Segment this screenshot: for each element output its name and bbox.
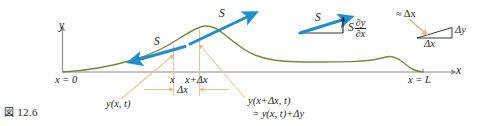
y-expansion-label: = y(x, t)+Δy	[248, 107, 304, 120]
inset-component-graphic	[300, 20, 343, 33]
y-axis-label: y	[59, 19, 64, 31]
tick-label-x: x	[170, 74, 175, 85]
hypotenuse-pointer	[409, 19, 424, 32]
triangle-shape	[417, 28, 452, 39]
caption-number: 12.6	[17, 106, 37, 118]
origin-label: x = 0	[55, 74, 77, 85]
tension-vector-right	[190, 17, 247, 44]
y-x-plus-dx-t-block: y(x+Δx, t) = y(x, t)+Δy	[248, 94, 304, 120]
triangle-height-label: Δy	[455, 24, 466, 35]
wave-curve	[63, 26, 423, 72]
triangle-base-label: Δx	[424, 38, 435, 49]
figure-wave-on-string: y x x = 0 x = L x x+Δx Δx y(x, t) y(x+Δx…	[0, 0, 478, 126]
inset-component-expression: S∂y∂x	[348, 18, 366, 39]
tick-label-x-plus-dx: x+Δx	[185, 74, 208, 85]
axis-group	[63, 30, 453, 72]
x-axis-label: x	[456, 64, 461, 76]
inset-partial-denominator: ∂x	[355, 29, 366, 39]
tension-label-right: S	[219, 7, 225, 19]
leader-y-x-t	[121, 57, 171, 99]
inset-partial-derivative: ∂y∂x	[355, 18, 366, 39]
tension-label-left: S	[154, 35, 160, 47]
caption-symbol: 図	[4, 107, 14, 118]
delta-x-label: Δx	[177, 84, 188, 95]
y-x-t-label: y(x, t)	[106, 98, 130, 109]
inset-vector-label: S	[315, 11, 321, 23]
y-x-plus-dx-t-label: y(x+Δx, t)	[248, 94, 304, 107]
inset-triangle-graphic	[409, 19, 452, 38]
figure-caption: 図12.6	[4, 104, 38, 119]
inset-tension-vector	[300, 20, 342, 33]
hypotenuse-label: ≈ Δx	[396, 8, 416, 19]
end-label: x = L	[408, 74, 431, 85]
inset-component-s: S	[348, 21, 354, 33]
